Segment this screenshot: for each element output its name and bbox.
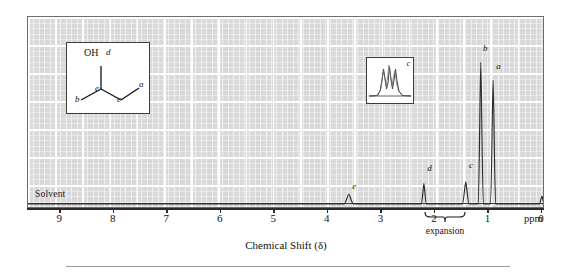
bottom-divider [66,266,510,267]
axis-tick-label-3: 3 [378,212,384,224]
structure-oh-label: OH [84,47,98,58]
x-axis-line [27,208,544,210]
ppm-unit-label: ppm [524,213,543,224]
expansion-caption: expansion [426,226,465,236]
axis-tick-label-5: 5 [271,212,277,224]
figure-root: Solvent edcba OH d e b c a [0,0,572,273]
expansion-inset: c [366,57,414,104]
structure-label-b: b [75,94,80,104]
axis-title: Chemical Shift (δ) [0,239,572,251]
axis-tick-label-7: 7 [163,212,169,224]
axis-tick-label-8: 8 [110,212,116,224]
axis-tick-label-6: 6 [217,212,223,224]
axis-tick-label-4: 4 [324,212,330,224]
peak-label-d: d [427,163,432,173]
peak-label-e: e [352,181,356,191]
expansion-inset-label: c [407,59,410,68]
axis-tick-label-9: 9 [56,212,62,224]
spectrum-plot-area: Solvent edcba OH d e b c a [27,16,544,208]
expansion-brace [424,212,466,223]
structure-label-e: e [95,83,99,93]
axis-tick-label-1: 1 [485,212,491,224]
peak-label-a: a [496,61,501,71]
peak-label-b: b [483,43,488,53]
structure-label-c: c [117,94,121,104]
peak-label-c: c [469,160,473,170]
structure-inset: OH d e b c a [66,42,150,114]
structure-label-d: d [106,47,111,57]
structure-label-a: a [139,79,144,89]
